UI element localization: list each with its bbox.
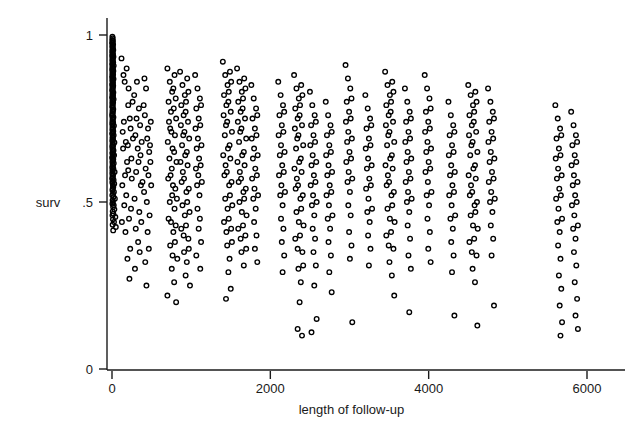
scatter-plot-figure: 0.510200040006000length of follow-upsurv	[0, 0, 633, 430]
x-tick-label: 6000	[573, 381, 602, 396]
x-axis-title: length of follow-up	[299, 402, 405, 417]
chart-svg: 0.510200040006000length of follow-upsurv	[0, 0, 633, 430]
y-tick-label: .5	[82, 195, 93, 210]
x-tick-label: 2000	[256, 381, 285, 396]
plot-canvas: 0.510200040006000length of follow-upsurv	[0, 0, 633, 430]
x-tick-label: 0	[108, 381, 115, 396]
y-tick-label: 1	[86, 28, 93, 43]
y-tick-label: 0	[86, 362, 93, 377]
y-axis-title: surv	[36, 195, 61, 210]
x-tick-label: 4000	[414, 381, 443, 396]
